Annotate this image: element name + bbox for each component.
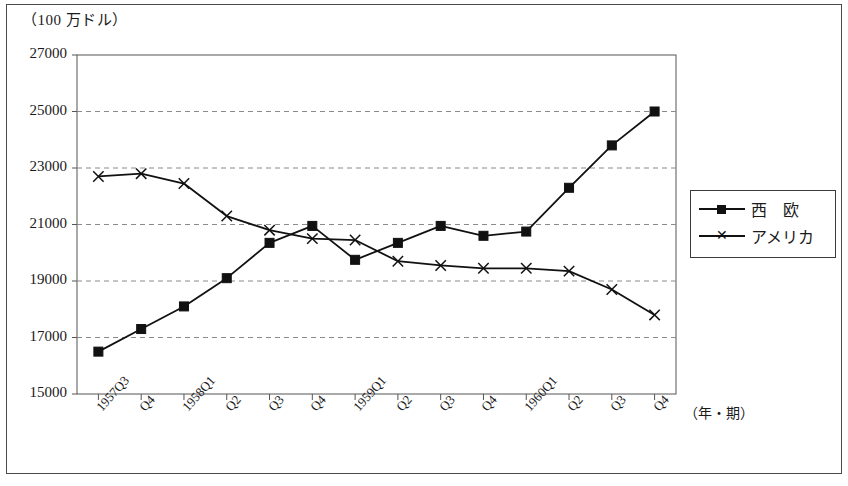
y-tick-label: 19000 (5, 271, 67, 288)
series-line-america (98, 174, 654, 315)
legend-label-america: アメリカ (751, 224, 814, 248)
legend-item-america: ✕ アメリカ (699, 223, 814, 249)
legend-label-west-europe: 西 欧 (751, 197, 799, 221)
y-tick-label: 25000 (5, 102, 67, 119)
data-point-marker (436, 221, 445, 230)
y-tick-label: 23000 (5, 158, 67, 175)
data-point-marker (179, 302, 188, 311)
data-point-marker (393, 238, 402, 247)
x-marker-icon: ✕ (699, 229, 745, 243)
data-point-marker (351, 255, 360, 264)
data-point-marker (479, 231, 488, 240)
legend-item-west-europe: 西 欧 (699, 196, 799, 222)
data-point-marker (565, 183, 574, 192)
y-tick-label: 27000 (5, 45, 67, 62)
figure-container: （100 万ドル） 150001700019000210002300025000… (0, 0, 848, 486)
chart-legend: 西 欧 ✕ アメリカ (690, 190, 836, 258)
data-point-marker (522, 227, 531, 236)
data-point-marker (607, 141, 616, 150)
data-point-marker (650, 107, 659, 116)
x-axis-title: （年・期） (684, 402, 754, 422)
data-point-marker (308, 221, 317, 230)
square-marker-icon (699, 202, 745, 216)
data-point-marker (265, 238, 274, 247)
data-point-marker (222, 274, 231, 283)
series-line-west-europe (98, 112, 654, 352)
data-point-marker (137, 325, 146, 334)
y-tick-label: 17000 (5, 328, 67, 345)
y-tick-label: 21000 (5, 215, 67, 232)
data-point-marker (94, 347, 103, 356)
y-tick-label: 15000 (5, 384, 67, 401)
